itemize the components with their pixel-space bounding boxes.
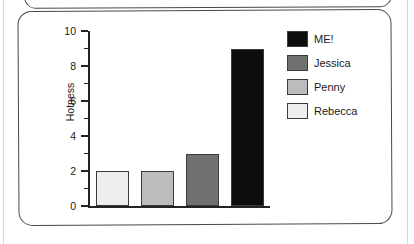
legend-label: Penny [314,82,345,93]
bar-rebecca [96,171,129,206]
y-tick-major [81,30,88,31]
y-tick-label: 10 [36,26,76,36]
legend-swatch-icon [287,31,308,47]
legend-swatch-icon [287,55,308,71]
bar-chart: 0246810 Hotness ME!JessicaPennyRebecca [0,0,414,244]
y-tick-major [81,135,88,136]
bar-me [231,49,264,207]
y-tick-minor [84,48,89,49]
y-axis-line [88,31,90,208]
y-tick-minor [84,153,89,154]
legend-label: Jessica [314,58,351,69]
y-tick-major [81,100,88,101]
y-tick-minor [84,188,89,189]
y-tick-major [81,170,88,171]
legend-item: Jessica [287,51,357,75]
y-tick-major [81,65,88,66]
legend-swatch-icon [287,79,308,95]
legend-label: ME! [314,34,334,45]
y-tick-major [81,205,88,206]
bar-penny [141,171,174,206]
legend-label: Rebecca [314,106,357,117]
legend-item: ME! [287,27,357,51]
legend-item: Rebecca [287,99,357,123]
y-tick-minor [84,83,89,84]
y-tick-label: 4 [36,131,76,141]
y-tick-label: 0 [36,201,76,211]
x-axis-line [88,206,270,208]
chart-legend: ME!JessicaPennyRebecca [287,27,357,123]
legend-swatch-icon [287,103,308,119]
bar-jessica [186,154,219,207]
legend-item: Penny [287,75,357,99]
y-tick-minor [84,118,89,119]
y-axis-title: Hotness [64,72,76,132]
y-tick-label: 2 [36,166,76,176]
y-tick-label: 8 [36,61,76,71]
